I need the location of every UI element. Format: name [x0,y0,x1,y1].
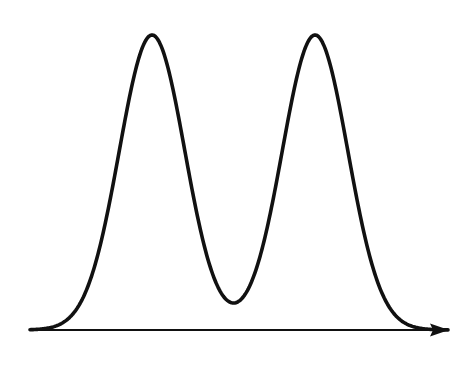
bimodal-chart [0,0,474,366]
chart-background [0,0,474,366]
